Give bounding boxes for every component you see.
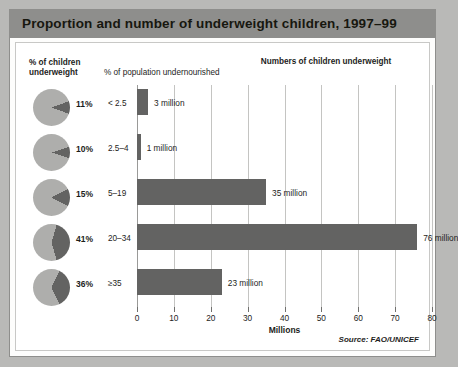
axis-tick [358, 307, 359, 312]
x-axis-title: Millions [137, 325, 432, 335]
axis-tick-label: 50 [317, 313, 326, 323]
bar [137, 269, 222, 295]
pie-chart [33, 224, 70, 261]
pie-percent-label: 15% [76, 189, 106, 199]
bar [137, 179, 266, 205]
pie-percent-label: 36% [76, 279, 106, 289]
bar-value-label: 1 million [147, 143, 177, 153]
pie-percent-label: 10% [76, 144, 106, 154]
axis-tick-label: 20 [206, 313, 215, 323]
gridline [321, 85, 322, 307]
figure-body: % of children underweight % of populatio… [15, 42, 430, 351]
pie-chart [33, 179, 70, 216]
header-numbers: Numbers of children underweight [221, 57, 431, 67]
figure-card: Proportion and number of underweight chi… [9, 9, 436, 357]
bar [137, 134, 141, 160]
axis-tick [321, 307, 322, 312]
pie-percent-label: 11% [76, 99, 106, 109]
axis-tick-label: 10 [169, 313, 178, 323]
axis-tick-label: 40 [280, 313, 289, 323]
pie-chart [33, 89, 70, 126]
axis-tick-label: 30 [243, 313, 252, 323]
figure-title-bar: Proportion and number of underweight chi… [10, 10, 435, 38]
axis-tick [395, 307, 396, 312]
axis-tick [211, 307, 212, 312]
pie-chart [33, 269, 70, 306]
pie-chart [33, 134, 70, 171]
axis-tick-label: 70 [391, 313, 400, 323]
axis-tick-label: 80 [427, 313, 436, 323]
header-undernourished: % of population undernourished [104, 68, 234, 78]
axis-tick [285, 307, 286, 312]
bar-value-label: 23 million [228, 278, 263, 288]
bar-chart-plot: 3 million1 million35 million76 million23… [137, 85, 432, 307]
gridline [358, 85, 359, 307]
axis-tick [137, 307, 138, 312]
bar-value-label: 3 million [154, 98, 184, 108]
bar-value-label: 76 million [423, 233, 458, 243]
figure-title: Proportion and number of underweight chi… [22, 16, 397, 31]
pie-percent-label: 41% [76, 234, 106, 244]
axis-tick [248, 307, 249, 312]
axis-tick [432, 307, 433, 312]
bar-value-label: 35 million [272, 188, 307, 198]
axis-tick-label: 0 [135, 313, 140, 323]
gridline [395, 85, 396, 307]
gridline [432, 85, 433, 307]
axis-tick-label: 60 [354, 313, 363, 323]
bar [137, 224, 417, 250]
bar [137, 89, 148, 115]
source-note: Source: FAO/UNICEF [339, 335, 419, 344]
axis-tick [174, 307, 175, 312]
